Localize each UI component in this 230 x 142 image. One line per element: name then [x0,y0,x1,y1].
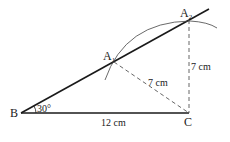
label-c: C [184,115,192,129]
label-b: B [10,106,18,120]
label-a2c: 7 cm [191,61,211,72]
label-a2: A2 [180,6,193,21]
label-angle: 30° [37,103,51,114]
geometry-diagram: B C A1 A2 30° 12 cm 7 cm 7 cm [0,0,230,142]
label-a1c: 7 cm [148,77,168,88]
label-base: 12 cm [101,117,126,128]
label-a1: A1 [103,49,116,64]
angle-arc [34,106,36,113]
